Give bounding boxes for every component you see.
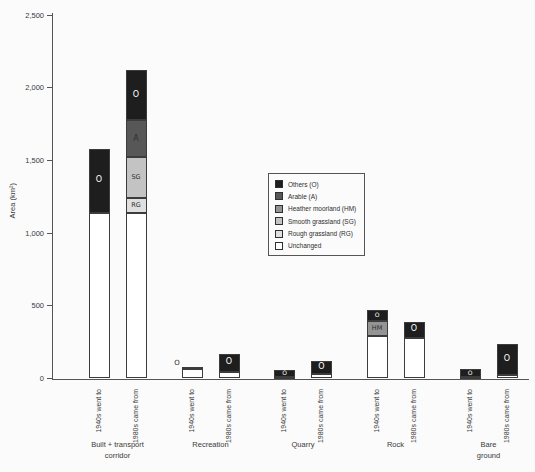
bar-segment-U <box>182 369 203 378</box>
segment-label-O: O <box>274 370 295 376</box>
segment-label-outside-O: O <box>173 360 182 367</box>
legend-item-label: Others (O) <box>288 181 319 188</box>
segment-label-O: O <box>126 91 147 99</box>
segment-label-SG: SG <box>126 174 147 181</box>
category-label: Recreation <box>166 439 256 450</box>
legend-item: Rough grassland (RG) <box>275 230 359 238</box>
category-label: Quarry <box>258 439 348 450</box>
segment-label-A: A <box>126 135 147 143</box>
y-tick-mark <box>47 160 52 161</box>
bar-segment-U <box>126 213 147 379</box>
segment-label-HM: HM <box>367 325 388 332</box>
y-tick-mark <box>47 87 52 88</box>
segment-label-O: O <box>311 363 332 371</box>
y-tick-label: 2,000 <box>0 83 44 92</box>
chart-canvas: Area (km²) 05001,0001,5002,0002,500 O194… <box>0 0 535 472</box>
segment-label-O: O <box>404 325 425 333</box>
segment-label-O: O <box>460 370 481 376</box>
y-tick-mark <box>47 15 52 16</box>
legend-swatch-HM <box>275 205 283 213</box>
legend-item-label: Smooth grassland (SG) <box>288 218 356 225</box>
legend-item-label: Arable (A) <box>288 193 317 200</box>
bar-segment-U <box>219 372 240 379</box>
y-axis-title: Area (km²) <box>8 183 17 218</box>
y-axis-line <box>52 13 53 380</box>
bar-segment-O <box>182 367 203 369</box>
bar-segment-U <box>274 377 295 379</box>
x-tick-label: 1940s went to <box>279 389 288 433</box>
category-label: Built + transport corridor <box>73 439 163 462</box>
legend-swatch-O <box>275 180 283 188</box>
x-tick-label: 1980s came from <box>502 389 511 443</box>
segment-label-O: O <box>497 355 518 363</box>
bar-segment-U <box>367 336 388 378</box>
y-tick-label: 1,500 <box>0 156 44 165</box>
y-tick-mark <box>47 233 52 234</box>
bar-segment-U <box>497 375 518 379</box>
legend-item: Heather moorland (HM) <box>275 205 359 213</box>
legend-swatch-RG <box>275 230 283 238</box>
segment-label-O: O <box>367 312 388 318</box>
y-tick-label: 2,500 <box>0 11 44 20</box>
legend-item: Arable (A) <box>275 192 359 200</box>
x-tick-label: 1940s went to <box>465 389 474 433</box>
bar-segment-U <box>311 374 332 378</box>
y-tick-label: 1,000 <box>0 229 44 238</box>
x-tick-label: 1940s went to <box>94 389 103 433</box>
category-label: Bare ground <box>444 439 534 462</box>
legend-swatch-U <box>275 242 283 250</box>
x-tick-label: 1980s came from <box>131 389 140 443</box>
x-tick-label: 1980s came from <box>409 389 418 443</box>
y-tick-mark <box>47 305 52 306</box>
segment-label-O: O <box>219 358 240 366</box>
x-tick-label: 1980s came from <box>224 389 233 443</box>
legend-item-label: Rough grassland (RG) <box>288 230 353 237</box>
y-tick-label: 500 <box>0 301 44 310</box>
bar-segment-U <box>89 213 110 379</box>
legend-item-label: Unchanged <box>288 242 321 249</box>
legend-item: Unchanged <box>275 242 359 250</box>
category-label: Rock <box>351 439 441 450</box>
legend-item-label: Heather moorland (HM) <box>288 205 356 212</box>
y-tick-label: 0 <box>0 374 44 383</box>
segment-label-O: O <box>89 176 110 184</box>
legend-swatch-A <box>275 192 283 200</box>
x-tick-label: 1940s went to <box>187 389 196 433</box>
legend-swatch-SG <box>275 217 283 225</box>
segment-label-RG: RG <box>126 202 147 209</box>
bar-segment-U <box>460 377 481 379</box>
legend-item: Others (O) <box>275 180 359 188</box>
x-tick-label: 1940s went to <box>372 389 381 433</box>
x-tick-label: 1980s came from <box>316 389 325 443</box>
legend: Others (O)Arable (A)Heather moorland (HM… <box>268 173 365 256</box>
legend-item: Smooth grassland (SG) <box>275 217 359 225</box>
bar-segment-U <box>404 338 425 379</box>
